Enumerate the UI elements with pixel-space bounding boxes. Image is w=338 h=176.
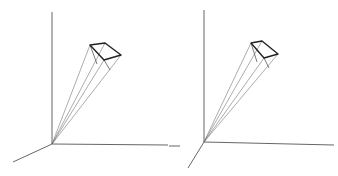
panel-left bbox=[13, 12, 168, 162]
frustum-ray bbox=[52, 55, 121, 144]
frustum-ray bbox=[204, 58, 264, 142]
frustum-edge bbox=[264, 58, 269, 68]
frustum-edge bbox=[104, 60, 110, 70]
panel-right bbox=[169, 10, 334, 168]
frustum-ray bbox=[204, 54, 278, 142]
axis-diagonal bbox=[188, 142, 204, 168]
axis-horizontal bbox=[204, 142, 334, 145]
axis-horizontal bbox=[52, 144, 168, 145]
frustum-ray bbox=[204, 43, 251, 142]
frustum-ray bbox=[204, 41, 262, 142]
frustum-ray bbox=[52, 43, 105, 144]
frustum-ray bbox=[52, 60, 104, 144]
stereo-figure bbox=[0, 0, 338, 176]
frustum-ray bbox=[52, 45, 90, 144]
stereo-diagram bbox=[0, 0, 338, 176]
axis-diagonal bbox=[13, 144, 52, 162]
